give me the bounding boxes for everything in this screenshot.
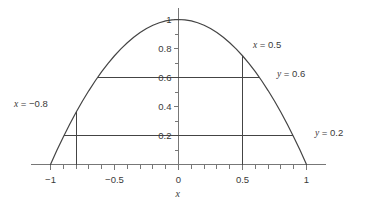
y-tick-label: 0.8 — [138, 44, 172, 54]
y-tick-label: 0.4 — [138, 102, 172, 112]
chart-figure: −1−0.500.510.20.40.60.81xx = −0.8x = 0.5… — [0, 0, 367, 204]
annotation-value: = 0.6 — [281, 68, 305, 79]
y-tick-label: 0.2 — [138, 131, 172, 141]
x-tick-label: −0.5 — [95, 175, 135, 185]
y-tick-label: 1 — [138, 15, 172, 25]
x-axis-name: x — [176, 189, 180, 199]
annotation-y-06: y = 0.6 — [277, 69, 305, 80]
x-tick-label: −1 — [31, 175, 71, 185]
annotation-x-05: x = 0.5 — [253, 40, 281, 51]
axis-layer — [31, 8, 325, 170]
x-tick-label: 0.5 — [223, 175, 263, 185]
annotation-value: = 0.5 — [257, 39, 281, 50]
annotation-value: = −0.8 — [18, 98, 48, 109]
annotation-x-neg08: x = −0.8 — [14, 99, 48, 110]
annotation-y-02: y = 0.2 — [315, 128, 343, 139]
x-tick-label: 0 — [159, 175, 199, 185]
x-tick-label: 1 — [287, 175, 327, 185]
y-tick-label: 0.6 — [138, 73, 172, 83]
annotation-value: = 0.2 — [319, 127, 343, 138]
